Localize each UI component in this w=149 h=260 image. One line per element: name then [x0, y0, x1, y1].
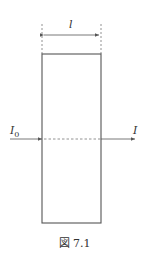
incident-intensity-label: I0 — [10, 124, 19, 139]
incident-label-subscript: 0 — [14, 130, 19, 139]
diagram-canvas — [0, 0, 149, 260]
transmitted-intensity-label: I — [133, 124, 137, 137]
width-label: l — [69, 18, 73, 31]
figure-caption: 図 7.1 — [0, 234, 149, 250]
sample-rectangle — [42, 54, 101, 223]
